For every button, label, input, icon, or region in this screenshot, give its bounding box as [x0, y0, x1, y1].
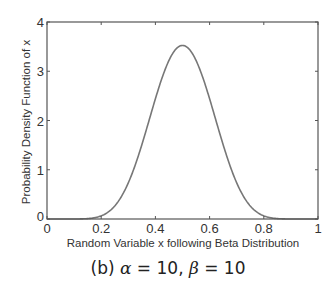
x-tick-label: 0.4: [146, 221, 164, 236]
axes-frame: [47, 22, 318, 219]
alpha-symbol: α: [120, 258, 131, 278]
x-tick-label: 0.2: [92, 221, 110, 236]
x-tick-label: 0: [43, 221, 50, 236]
y-tick-label: 3: [37, 64, 44, 79]
figure-caption: (b) α = 10, β = 10: [0, 258, 336, 278]
pdf-curve: [47, 45, 318, 219]
y-tick-label: 4: [37, 15, 44, 30]
alpha-value: = 10,: [131, 258, 189, 278]
y-tick-label: 0: [37, 209, 44, 224]
beta-pdf-chart: 00.20.40.60.8101234 Probability Density …: [0, 0, 336, 250]
beta-value: = 10: [199, 258, 246, 278]
beta-symbol: β: [189, 258, 199, 278]
x-tick-label: 0.6: [201, 221, 219, 236]
plot-area: 00.20.40.60.8101234: [37, 15, 322, 236]
x-tick-label: 1: [314, 221, 321, 236]
caption-prefix: (b): [91, 258, 120, 278]
y-axis-label: Probability Density Function of x: [20, 40, 32, 205]
x-tick-label: 0.8: [255, 221, 273, 236]
y-tick-label: 1: [37, 163, 44, 178]
x-axis-label: Random Variable x following Beta Distrib…: [67, 237, 299, 249]
y-tick-label: 2: [37, 114, 44, 129]
